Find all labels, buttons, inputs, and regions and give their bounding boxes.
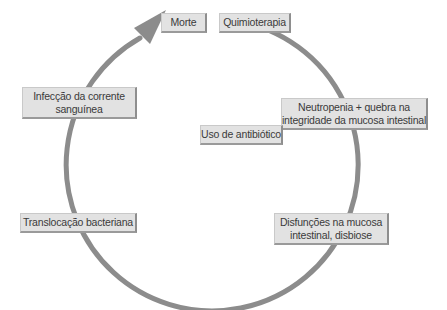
node-label-line1: Disfunções na mucosa xyxy=(280,216,382,229)
node-label: Morte xyxy=(171,16,197,29)
node-translocacao: Translocação bacteriana xyxy=(20,213,137,233)
node-antibiotico: Uso de antibiótico xyxy=(200,125,283,145)
node-label: Uso de antibiótico xyxy=(201,128,281,141)
node-label-line1: Infecção da corrente xyxy=(33,90,125,103)
node-label-line2: intestinal, disbiose xyxy=(290,229,372,242)
node-morte: Morte xyxy=(161,13,207,33)
node-label-line2: integridade da mucosa intestinal xyxy=(282,114,426,127)
cycle-arc xyxy=(0,0,447,310)
node-quimioterapia: Quimioterapia xyxy=(219,13,291,33)
node-label-line2: sanguínea xyxy=(55,103,102,116)
node-infeccao: Infecção da corrente sanguínea xyxy=(22,87,137,119)
node-neutropenia: Neutropenia + quebra na integridade da m… xyxy=(281,98,428,130)
node-label: Quimioterapia xyxy=(223,16,286,29)
node-disfuncoes: Disfunções na mucosa intestinal, disbios… xyxy=(274,213,389,245)
node-label: Translocação bacteriana xyxy=(23,216,133,229)
node-label-line1: Neutropenia + quebra na xyxy=(298,101,410,114)
